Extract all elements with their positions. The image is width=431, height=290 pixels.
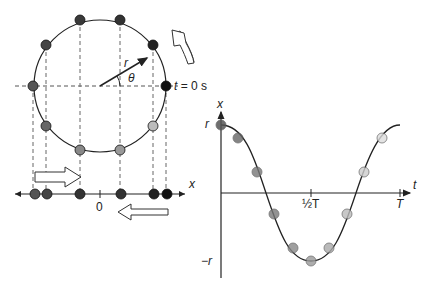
rotation-arrow-icon <box>172 30 194 64</box>
angle-label: θ <box>128 71 135 85</box>
r-min-label: −r <box>201 254 213 268</box>
period-label: T <box>396 197 405 211</box>
start-label: t = 0 s <box>174 79 207 93</box>
right-arrow-icon <box>35 167 81 187</box>
graph-t-label: t <box>413 178 417 192</box>
projection-lines <box>33 20 166 195</box>
graph-y-label: x <box>216 97 224 111</box>
x-axis-label: x <box>188 177 196 191</box>
left-arrow-icon <box>118 204 168 220</box>
half-period-label: ½T <box>302 197 320 211</box>
shm-diagram: r θ t = 0 s x 0 x t r −r ½T T <box>0 0 431 290</box>
radius-label: r <box>124 56 129 70</box>
r-max-label: r <box>205 117 210 131</box>
circle-dots <box>28 15 171 155</box>
origin-label: 0 <box>96 200 103 214</box>
